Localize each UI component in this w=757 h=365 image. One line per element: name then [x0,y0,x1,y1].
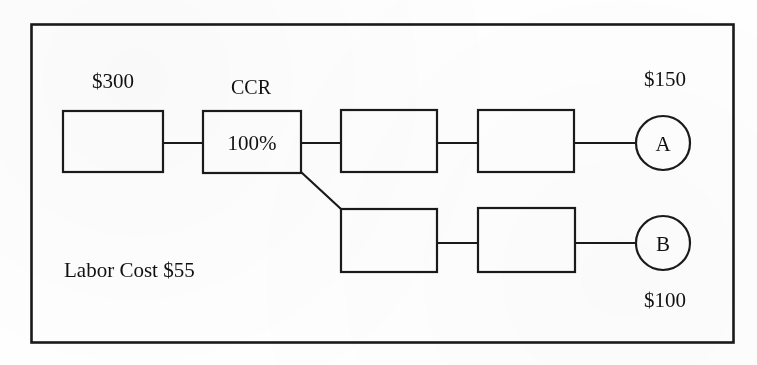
label-branch-b-value: $100 [644,288,686,312]
label-raw-material-value: $300 [92,69,134,93]
node-op6[interactable] [478,208,575,272]
label-product-a: A [655,132,671,156]
label-product-b: B [656,232,670,256]
node-op1[interactable] [63,111,163,172]
label-branch-a-value: $150 [644,67,686,91]
diagram-frame [32,25,734,343]
connector-ccr-to-op5-diagonal [301,172,341,209]
node-op4[interactable] [478,110,574,172]
node-op5[interactable] [341,209,437,272]
diagram-canvas: $300 CCR 100% $150 A B $100 Labor Cost $… [0,0,757,365]
label-ccr-title: CCR [231,76,272,98]
node-op3[interactable] [341,110,437,172]
process-flow-diagram: $300 CCR 100% $150 A B $100 Labor Cost $… [0,0,757,365]
label-labor-cost: Labor Cost $55 [64,258,195,282]
label-ccr-utilization: 100% [228,131,277,155]
